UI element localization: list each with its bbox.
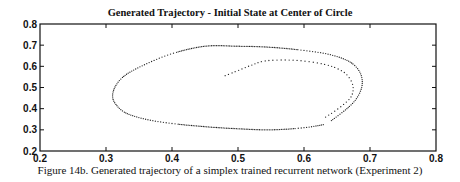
trajectory-point: [343, 104, 344, 105]
x-tick-label: 0.4: [165, 153, 179, 164]
trajectory-point: [132, 115, 133, 116]
trajectory-point: [354, 65, 355, 66]
trajectory-point: [251, 64, 252, 65]
trajectory-point: [256, 129, 257, 130]
trajectory-point: [223, 127, 224, 128]
trajectory-point: [339, 57, 340, 58]
trajectory-point: [203, 46, 204, 47]
trajectory-point: [246, 129, 247, 130]
trajectory-point: [303, 50, 304, 51]
trajectory-point: [356, 98, 357, 99]
trajectory-point: [225, 75, 226, 76]
trajectory-point: [277, 129, 278, 130]
trajectory-point: [226, 45, 227, 46]
trajectory-point: [341, 57, 342, 58]
trajectory-point: [249, 129, 250, 130]
trajectory-point: [196, 125, 197, 126]
trajectory-point: [242, 128, 243, 129]
trajectory-point: [269, 47, 270, 48]
trajectory-point: [328, 114, 329, 115]
trajectory-point: [361, 89, 362, 90]
trajectory-point: [285, 59, 286, 60]
trajectory-point: [194, 47, 195, 48]
trajectory-point: [345, 109, 346, 110]
trajectory-point: [166, 122, 167, 123]
trajectory-point: [128, 114, 129, 115]
trajectory-point: [147, 119, 148, 120]
trajectory-point: [115, 104, 116, 105]
trajectory-point: [257, 129, 258, 130]
trajectory-point: [126, 74, 127, 75]
trajectory-point: [308, 61, 309, 62]
trajectory-point: [353, 101, 354, 102]
trajectory-point: [193, 125, 194, 126]
trajectory-point: [117, 106, 118, 107]
trajectory-point: [272, 47, 273, 48]
trajectory-point: [119, 108, 120, 109]
trajectory-point: [153, 60, 154, 61]
trajectory-point: [236, 46, 237, 47]
trajectory-point: [291, 48, 292, 49]
trajectory-point: [228, 74, 229, 75]
trajectory-series: [112, 45, 363, 131]
trajectory-point: [260, 46, 261, 47]
trajectory-point: [346, 108, 347, 109]
trajectory-point: [246, 46, 247, 47]
trajectory-point: [254, 63, 255, 64]
x-tick-label: 0.6: [297, 153, 311, 164]
trajectory-point: [216, 45, 217, 46]
trajectory-point: [196, 47, 197, 48]
trajectory-point: [331, 120, 332, 121]
trajectory-point: [178, 51, 179, 52]
trajectory-point: [179, 51, 180, 52]
trajectory-point: [335, 116, 336, 117]
trajectory-point: [352, 63, 353, 64]
trajectory-point: [229, 128, 230, 129]
trajectory-point: [296, 60, 297, 61]
trajectory-point: [350, 61, 351, 62]
trajectory-point: [164, 55, 165, 56]
trajectory-point: [286, 129, 287, 130]
trajectory-point: [277, 47, 278, 48]
trajectory-point: [317, 52, 318, 53]
trajectory-point: [131, 70, 132, 71]
trajectory-point: [167, 54, 168, 55]
trajectory-point: [265, 129, 266, 130]
trajectory-point: [336, 56, 337, 57]
trajectory-point: [198, 47, 199, 48]
trajectory-point: [218, 127, 219, 128]
trajectory-point: [237, 128, 238, 129]
trajectory-point: [173, 53, 174, 54]
trajectory-point: [270, 47, 271, 48]
trajectory-point: [151, 61, 152, 62]
trajectory-point: [232, 128, 233, 129]
trajectory-point: [358, 70, 359, 71]
trajectory-point: [227, 45, 228, 46]
trajectory-point: [231, 72, 232, 73]
trajectory-point: [345, 59, 346, 60]
trajectory-point: [187, 125, 188, 126]
trajectory-point: [323, 124, 324, 125]
trajectory-point: [216, 127, 217, 128]
trajectory-point: [360, 91, 361, 92]
trajectory-point: [267, 129, 268, 130]
trajectory-point: [315, 51, 316, 52]
trajectory-point: [352, 84, 353, 85]
trajectory-point: [170, 53, 171, 54]
trajectory-point: [268, 60, 269, 61]
trajectory-point: [257, 62, 258, 63]
trajectory-point: [201, 126, 202, 127]
plot-frame: [40, 24, 436, 151]
trajectory-point: [241, 46, 242, 47]
trajectory-point: [362, 81, 363, 82]
trajectory-point: [145, 119, 146, 120]
trajectory-point: [123, 76, 124, 77]
trajectory-point: [189, 48, 190, 49]
trajectory-point: [138, 117, 139, 118]
trajectory-point: [214, 45, 215, 46]
trajectory-point: [337, 68, 338, 69]
trajectory-point: [127, 113, 128, 114]
trajectory-point: [219, 127, 220, 128]
trajectory-point: [337, 115, 338, 116]
trajectory-point: [114, 88, 115, 89]
